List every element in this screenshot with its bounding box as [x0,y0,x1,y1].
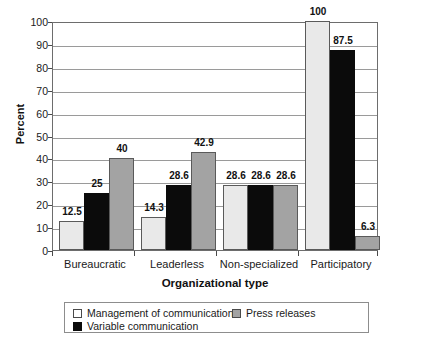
bar-group-bureaucratic: 12.5 25 40 [59,23,134,250]
bar-value-bureaucratic-variable-communication: 25 [77,178,117,189]
x-category-label-participatory: Participatory [281,258,401,270]
bar-value-leaderless-variable-communication: 28.6 [159,170,199,181]
bar-group-non-specialized: 28.6 28.6 28.6 [223,23,298,250]
legend-label-variable-communication: Variable communication [87,320,198,332]
bar-bureaucratic-variable-communication[interactable] [84,193,109,250]
bar-value-bureaucratic-press-releases: 40 [102,143,142,154]
bar-non-specialized-press-releases[interactable] [273,185,298,251]
legend-label-press-releases: Press releases [246,307,315,319]
x-axis-title: Organizational type [52,277,378,289]
bar-value-bureaucratic-management-of-communication: 12.5 [52,206,92,217]
legend-entry-press-releases[interactable]: Press releases [232,307,315,319]
bar-bureaucratic-management-of-communication[interactable] [59,221,84,250]
bar-chart-figure: Percent 0 10 20 30 40 50 60 70 80 90 100 [0,0,432,349]
legend-entry-variable-communication[interactable]: Variable communication [73,320,198,332]
bar-leaderless-variable-communication[interactable] [166,185,191,251]
legend-label-management-of-communication: Management of communication [87,307,234,319]
bar-value-participatory-press-releases: 6.3 [348,221,388,232]
x-tick-mark-2 [216,251,217,256]
bar-value-participatory-variable-communication: 87.5 [323,35,363,46]
bar-value-leaderless-press-releases: 42.9 [184,137,224,148]
x-tick-mark-left [52,251,53,256]
x-tick-mark-right [377,251,378,256]
bar-leaderless-press-releases[interactable] [191,152,216,250]
y-axis-tick-marks [0,22,52,251]
bar-value-leaderless-management-of-communication: 14.3 [134,202,174,213]
legend-entry-management-of-communication[interactable]: Management of communication [73,307,234,319]
bar-leaderless-management-of-communication[interactable] [141,217,166,250]
x-tick-mark-1 [134,251,135,256]
bar-non-specialized-management-of-communication[interactable] [223,185,248,251]
bar-participatory-management-of-communication[interactable] [305,21,330,250]
bar-group-leaderless: 14.3 28.6 42.9 [141,23,216,250]
bar-value-non-specialized-press-releases: 28.6 [266,170,306,181]
bar-value-participatory-management-of-communication: 100 [298,6,338,17]
legend-swatch-management-of-communication [73,309,82,318]
bar-non-specialized-variable-communication[interactable] [248,185,273,251]
chart-legend: Management of communication Variable com… [64,302,369,333]
legend-swatch-variable-communication [73,322,82,331]
x-tick-mark-3 [298,251,299,256]
bar-group-participatory: 100 87.5 6.3 [305,23,380,250]
legend-swatch-press-releases [232,309,241,318]
bar-participatory-press-releases[interactable] [355,236,380,250]
plot-area: 12.5 25 40 14.3 28.6 42.9 28.6 28.6 28.6 [52,22,378,251]
bar-bureaucratic-press-releases[interactable] [109,158,134,250]
